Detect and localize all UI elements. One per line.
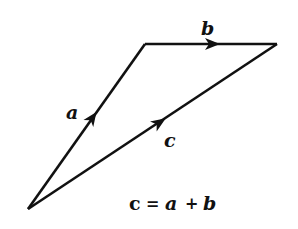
equation-plus: + bbox=[185, 194, 198, 213]
vector-b-label: b bbox=[201, 17, 214, 39]
equation-equals: = bbox=[146, 194, 159, 213]
vector-c-line bbox=[28, 44, 277, 209]
vector-c-label: c bbox=[164, 129, 176, 151]
vector-diagram: a b c c = a + b bbox=[0, 0, 298, 229]
equation-term-b: b bbox=[203, 192, 216, 214]
vector-a-line bbox=[28, 44, 145, 209]
equation-term-a: a bbox=[165, 192, 177, 214]
vector-a-label: a bbox=[66, 101, 78, 123]
equation: c = a + b bbox=[129, 192, 216, 214]
equation-lhs: c bbox=[129, 192, 141, 214]
